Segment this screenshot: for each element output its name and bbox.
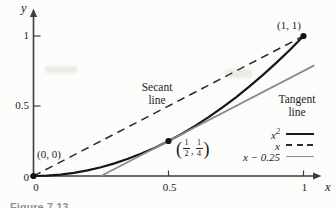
y-tick-label: 0.5	[0, 99, 29, 111]
y-tick-label: 1	[0, 29, 29, 41]
x-axis-label: x	[325, 181, 331, 194]
legend-line-sample-dashed	[286, 144, 314, 146]
midpoint-label: ( 1 2 , 1 4 )	[176, 139, 210, 159]
legend-item-x: x	[243, 140, 314, 150]
x-tick-label: 0.5	[157, 181, 183, 193]
legend-item-x-squared: x2	[243, 129, 314, 139]
point-one-one-label: (1, 1)	[277, 20, 301, 31]
comma: ,	[191, 145, 194, 156]
data-point	[300, 33, 306, 39]
bleed-through-artifact	[226, 69, 252, 78]
y-tick-label: 0	[0, 171, 29, 183]
x-tick-label: 1	[292, 181, 318, 193]
plot-legend: x2 x x − 0.25	[243, 129, 314, 161]
fraction-one-quarter: 1 4	[196, 139, 203, 159]
data-point	[165, 138, 171, 144]
y-axis-label: y	[21, 2, 27, 15]
data-point	[30, 173, 36, 179]
bleed-through-artifact	[45, 66, 77, 73]
tangent-line-annotation: Tangent line	[271, 93, 323, 119]
figure-caption: Figure 7.13	[10, 201, 69, 208]
secant-line-annotation: Secant line	[132, 81, 182, 107]
figure-canvas: y x (0, 0) (1, 1) ( 1 2 , 1 4 ) Secant l…	[0, 0, 335, 208]
y-axis-arrow	[30, 9, 37, 18]
close-paren: )	[204, 141, 210, 157]
x-axis-arrow	[313, 172, 322, 179]
fraction-one-half: 1 2	[183, 139, 190, 159]
legend-line-sample-solid-dark	[286, 133, 314, 135]
open-paren: (	[176, 141, 182, 157]
origin-point-label: (0, 0)	[37, 149, 61, 160]
legend-item-x-minus-025: x − 0.25	[243, 151, 314, 161]
legend-line-sample-solid-gray	[286, 156, 314, 157]
